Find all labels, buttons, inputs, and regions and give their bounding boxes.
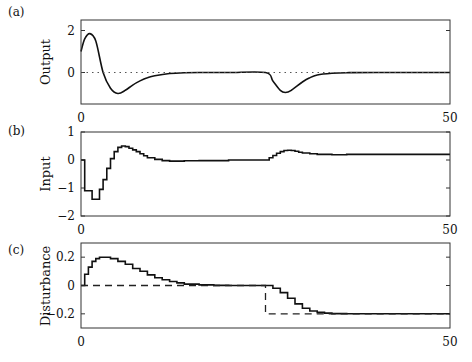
panel-b-input: (b) Input 10−1−2050 — [8, 124, 458, 237]
y-tick-label: 2 — [67, 24, 75, 38]
x-tick-label: 50 — [442, 223, 457, 237]
x-tick-label: 0 — [77, 335, 85, 349]
y-tick-label: 0 — [67, 153, 75, 167]
axis-ticks: 20050 — [67, 24, 457, 126]
plot-area — [81, 34, 450, 94]
axis-ticks: 0.20−0.2050 — [46, 250, 458, 349]
panel-label-a: (a) — [8, 5, 25, 19]
y-tick-label: −2 — [57, 209, 75, 223]
axis-ticks: 10−1−2050 — [57, 125, 457, 237]
series-output — [81, 34, 450, 94]
y-tick-label: −0.2 — [46, 307, 75, 321]
plot-area — [81, 146, 450, 199]
x-tick-label: 0 — [77, 111, 85, 125]
y-tick-label: 0.2 — [56, 250, 75, 264]
y-axis-label-input: Input — [38, 156, 53, 192]
panel-label-b: (b) — [8, 124, 25, 138]
x-tick-label: 50 — [442, 111, 457, 125]
series-true-disturbance — [81, 286, 450, 314]
panel-label-c: (c) — [8, 243, 24, 257]
figure: (a) Output 20050 (b) Input 10−1−2050 (c)… — [0, 0, 472, 362]
series-input — [81, 146, 450, 199]
x-tick-label: 50 — [442, 335, 457, 349]
panel-c-disturbance: (c) Disturbance 0.20−0.2050 — [8, 243, 458, 349]
plot-area — [81, 257, 450, 314]
y-tick-label: −1 — [57, 181, 75, 195]
y-axis-label-output: Output — [38, 38, 53, 85]
x-tick-label: 0 — [77, 223, 85, 237]
axes-frame — [81, 132, 450, 216]
panel-a-output: (a) Output 20050 — [8, 5, 458, 125]
y-tick-label: 1 — [67, 125, 75, 139]
y-tick-label: 0 — [67, 279, 75, 293]
axes-frame — [81, 20, 450, 104]
y-tick-label: 0 — [67, 66, 75, 80]
